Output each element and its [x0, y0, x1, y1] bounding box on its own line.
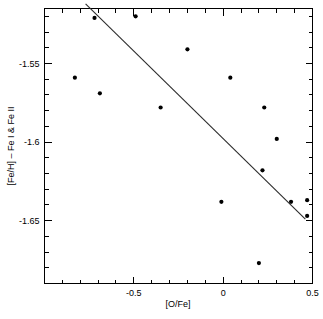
scatter-plot-figure: -0.500.5 -1.55-1.6-1.65 [O/Fe] [Fe/H] – …	[0, 0, 323, 319]
plot-frame	[45, 9, 313, 284]
data-point	[260, 168, 264, 172]
data-point	[257, 261, 261, 265]
x-tick-label: 0	[221, 288, 226, 298]
data-point	[219, 200, 223, 204]
y-axis-minor-ticks	[45, 16, 313, 283]
y-tick-label: -1.6	[24, 137, 40, 147]
y-axis-major-ticks	[45, 64, 313, 221]
data-point	[305, 198, 309, 202]
data-point	[262, 105, 266, 109]
data-point	[92, 16, 96, 20]
plot-canvas: -0.500.5 -1.55-1.6-1.65 [O/Fe] [Fe/H] – …	[0, 0, 323, 319]
y-axis-tick-labels: -1.55-1.6-1.65	[19, 59, 40, 226]
data-point	[185, 47, 189, 51]
data-point	[73, 76, 77, 80]
x-axis-minor-ticks	[45, 9, 295, 284]
data-point	[289, 200, 293, 204]
y-tick-label: -1.55	[19, 59, 40, 69]
data-point	[305, 214, 309, 218]
data-point	[275, 137, 279, 141]
data-point	[98, 91, 102, 95]
x-tick-label: 0.5	[306, 288, 319, 298]
data-point	[159, 105, 163, 109]
regression-fit-line	[86, 4, 306, 219]
x-axis-title: [O/Fe]	[165, 299, 190, 309]
data-point	[134, 14, 138, 18]
x-axis-major-ticks	[134, 9, 313, 284]
data-point	[228, 76, 232, 80]
x-tick-label: -0.5	[126, 288, 142, 298]
y-axis-title: [Fe/H] – Fe I & Fe II	[6, 106, 16, 185]
x-axis-tick-labels: -0.500.5	[126, 288, 319, 298]
data-point-series	[73, 14, 309, 265]
y-tick-label: -1.65	[19, 216, 40, 226]
